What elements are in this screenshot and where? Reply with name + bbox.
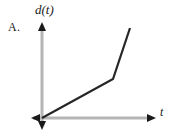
graph-figure: A. d(t) t [0,0,172,140]
distance-curve [42,28,130,118]
x-axis-label: t [160,106,163,118]
x-axis-left-arrow-icon [31,114,40,122]
y-axis-label: d(t) [35,3,54,16]
graph-canvas [0,0,172,140]
choice-label: A. [8,21,20,33]
x-axis-right-arrow-icon [147,114,156,122]
y-axis-down-arrow-icon [38,121,46,130]
y-axis-up-arrow-icon [38,22,46,31]
